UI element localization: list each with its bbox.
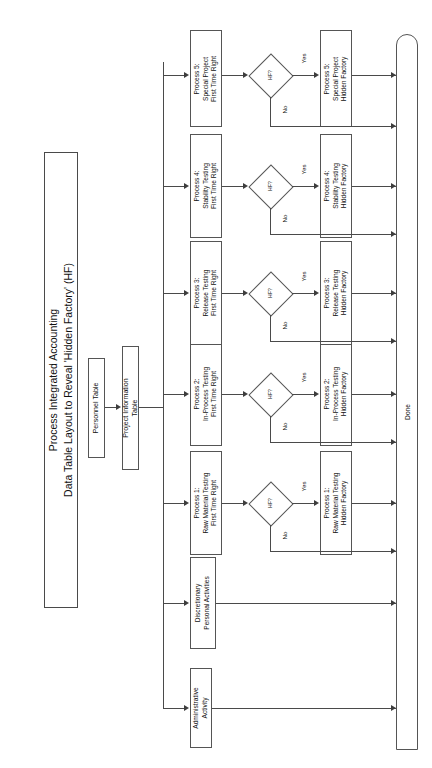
connector-process-2-no-h: [270, 442, 397, 443]
arrowhead-process-2-yes: [314, 391, 319, 397]
connector-process-2-yes: [292, 394, 314, 395]
distribution-spine: [163, 62, 164, 708]
process-3-ftr-box[interactable]: Process 3:Release TestingFirst Time Righ…: [190, 241, 222, 345]
process-2-decision-label: HF?: [267, 389, 273, 399]
connector-process-3-yes: [292, 293, 314, 294]
process-5-ftr-box[interactable]: Process 5:Special ProjectFirst Time Righ…: [190, 30, 222, 127]
arrowhead-process-4: [184, 183, 189, 189]
connector-discretionary-to-done: [216, 603, 397, 604]
connector-process-5-no-h: [270, 126, 397, 127]
process-4-decision-label: HF?: [267, 181, 273, 191]
connector-project-to-spine: [139, 407, 164, 408]
project-information-table-label: Project InformationTable: [121, 378, 139, 438]
process-1-hf-box[interactable]: Process 1:Raw Material TestingHidden Fac…: [320, 451, 352, 555]
process-1-ftr-label: Process 1:Raw Material TestingFirst Time…: [193, 472, 219, 533]
process-2-ftr-box[interactable]: Process 2:In-Process TestingFirst Time R…: [190, 342, 222, 446]
process-4-no-label: No: [278, 213, 290, 220]
connector-process-5-no-v: [270, 97, 271, 126]
arrowhead-administrative: [184, 705, 189, 711]
connector-process-1-to-decision: [222, 503, 243, 504]
flowchart-canvas: Process Integrated Accounting Data Table…: [0, 0, 432, 768]
process-2-no-label: No: [278, 421, 290, 428]
arrowhead-process-1-yes: [314, 500, 319, 506]
connector-spine-to-discretionary: [163, 603, 184, 604]
process-3-hf-label: Process 3:Release TestingHidden Factory: [323, 270, 349, 317]
process-4-hf-box[interactable]: Process 4:Stability TestingHidden Factor…: [320, 134, 352, 238]
connector-process-4-to-decision: [222, 186, 243, 187]
process-1-decision-label: HF?: [267, 498, 273, 508]
diagram-title-box: Process Integrated Accounting Data Table…: [44, 152, 78, 608]
process-1-yes-label: Yes: [296, 481, 310, 488]
connector-administrative-to-done: [212, 708, 397, 709]
process-4-ftr-box[interactable]: Process 4:Stability TestingFirst Time Ri…: [190, 134, 222, 238]
process-3-no-label: No: [278, 320, 290, 327]
connector-process-5-yes: [292, 75, 314, 76]
arrowhead-process-2: [184, 391, 189, 397]
connector-spine-to-administrative: [163, 708, 184, 709]
personnel-table-box[interactable]: Personnel Table: [88, 358, 105, 458]
done-terminator-label-wrap: Done: [398, 392, 416, 432]
connector-personnel-to-project: [105, 407, 116, 408]
connector-spine-to-process-4: [163, 186, 184, 187]
arrowhead-process-3: [184, 290, 189, 296]
connector-process-3-no-v: [270, 315, 271, 341]
arrowhead-process-5-yes: [314, 72, 319, 78]
process-2-yes-label: Yes: [296, 372, 310, 379]
process-1-hf-decision[interactable]: HF?: [248, 481, 292, 525]
connector-process-3-to-decision: [222, 293, 243, 294]
discretionary-personal-activities-box[interactable]: DiscretionaryPersonal Activities: [190, 557, 216, 649]
connector-process-5-to-decision: [222, 75, 243, 76]
connector-spine-to-process-1: [163, 503, 184, 504]
process-5-hf-decision[interactable]: HF?: [248, 53, 292, 97]
connector-process-1-no-h: [270, 551, 397, 552]
process-5-no-label: No: [278, 104, 290, 111]
process-5-hf-label: Process 5:Special ProjectHidden Factory: [323, 56, 349, 101]
process-2-ftr-label: Process 2:In-Process TestingFirst Time R…: [193, 367, 219, 421]
arrowhead-process-5: [184, 72, 189, 78]
page-title: Process Integrated Accounting Data Table…: [46, 263, 76, 497]
connector-spine-to-process-2: [163, 394, 184, 395]
process-3-decision-label: HF?: [267, 288, 273, 298]
arrowhead-process-1: [184, 500, 189, 506]
arrowhead-personnel-to-project: [116, 404, 121, 410]
arrowhead-discretionary: [184, 600, 189, 606]
administrative-activity-box[interactable]: AdministrativeActivity: [190, 668, 212, 748]
arrowhead-process-4-yes: [314, 183, 319, 189]
done-label: Done: [404, 404, 411, 420]
process-1-no-label: No: [278, 530, 290, 537]
connector-spine-to-process-3: [163, 293, 184, 294]
connector-process-4-yes: [292, 186, 314, 187]
connector-process-1-yes: [292, 503, 314, 504]
process-5-decision-label: HF?: [267, 70, 273, 80]
project-information-table-box[interactable]: Project InformationTable: [122, 346, 139, 470]
process-1-ftr-box[interactable]: Process 1:Raw Material TestingFirst Time…: [190, 451, 222, 555]
process-4-hf-label: Process 4:Stability TestingHidden Factor…: [323, 163, 349, 209]
connector-process-4-no-h: [270, 234, 397, 235]
title-line-2: Data Table Layout to Reveal 'Hidden Fact…: [61, 263, 76, 497]
process-5-ftr-label: Process 5:Special ProjectFirst Time Righ…: [193, 55, 219, 101]
process-2-hf-decision[interactable]: HF?: [248, 372, 292, 416]
title-line-1: Process Integrated Accounting: [46, 263, 61, 497]
connector-process-2-no-v: [270, 416, 271, 442]
connector-process-4-no-v: [270, 208, 271, 234]
process-5-hf-box[interactable]: Process 5:Special ProjectHidden Factory: [320, 30, 352, 127]
connector-process-1-no-v: [270, 525, 271, 551]
administrative-activity-label: AdministrativeActivity: [192, 687, 209, 728]
connector-process-3-no-h: [270, 341, 397, 342]
process-5-yes-label: Yes: [296, 53, 310, 60]
process-2-hf-box[interactable]: Process 2:In-Process TestingHidden Facto…: [320, 342, 352, 446]
process-4-yes-label: Yes: [296, 164, 310, 171]
connector-spine-to-process-5: [163, 75, 184, 76]
process-3-hf-box[interactable]: Process 3:Release TestingHidden Factory: [320, 241, 352, 345]
process-4-hf-decision[interactable]: HF?: [248, 164, 292, 208]
connector-process-2-to-decision: [222, 394, 243, 395]
discretionary-personal-activities-label: DiscretionaryPersonal Activities: [194, 576, 211, 630]
process-4-ftr-label: Process 4:Stability TestingFirst Time Ri…: [193, 163, 219, 209]
arrowhead-process-3-yes: [314, 290, 319, 296]
process-2-hf-label: Process 2:In-Process TestingHidden Facto…: [323, 367, 349, 421]
process-1-hf-label: Process 1:Raw Material TestingHidden Fac…: [323, 472, 349, 533]
personnel-table-label: Personnel Table: [92, 383, 101, 434]
process-3-ftr-label: Process 3:Release TestingFirst Time Righ…: [193, 270, 219, 317]
process-3-yes-label: Yes: [296, 271, 310, 278]
process-3-hf-decision[interactable]: HF?: [248, 271, 292, 315]
